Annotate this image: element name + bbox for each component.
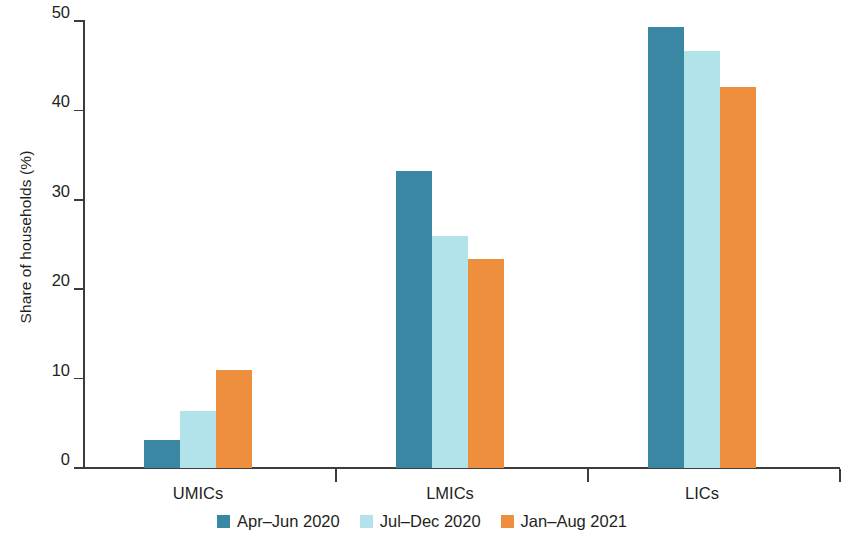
x-axis-tick <box>335 469 337 482</box>
legend-swatch-icon <box>217 515 230 528</box>
x-axis-category-label: LMICs <box>370 484 530 503</box>
legend-label: Jul–Dec 2020 <box>380 512 481 531</box>
x-axis-tick <box>587 469 589 482</box>
bar <box>144 440 180 468</box>
y-axis-label: Share of households (%) <box>17 107 35 367</box>
y-axis-tick <box>74 467 84 469</box>
y-axis-tick <box>74 199 84 201</box>
y-axis-tick <box>74 110 84 112</box>
y-axis-tick-label: 10 <box>28 362 70 379</box>
legend-item: Jan–Aug 2021 <box>501 512 627 531</box>
bar <box>720 87 756 468</box>
legend-label: Apr–Jun 2020 <box>237 512 340 531</box>
legend-item: Jul–Dec 2020 <box>360 512 481 531</box>
legend-item: Apr–Jun 2020 <box>217 512 340 531</box>
legend-label: Jan–Aug 2021 <box>521 512 627 531</box>
y-axis-tick-label: 20 <box>28 272 70 289</box>
y-axis-tick-label: 0 <box>28 451 70 468</box>
x-axis-tick <box>839 469 841 482</box>
bar <box>432 236 468 468</box>
bar <box>648 27 684 468</box>
legend-swatch-icon <box>360 515 373 528</box>
y-axis-tick <box>74 20 84 22</box>
bar <box>468 259 504 468</box>
y-axis-tick <box>74 378 84 380</box>
y-axis-tick-label: 40 <box>28 93 70 110</box>
chart-legend: Apr–Jun 2020Jul–Dec 2020Jan–Aug 2021 <box>0 512 844 531</box>
y-axis-tick <box>74 288 84 290</box>
y-axis-tick-label: 30 <box>28 183 70 200</box>
legend-swatch-icon <box>501 515 514 528</box>
bar <box>216 370 252 468</box>
bar <box>684 51 720 468</box>
bar <box>180 411 216 468</box>
bar <box>396 171 432 468</box>
x-axis-category-label: LICs <box>622 484 782 503</box>
plot-area <box>84 21 840 468</box>
y-axis-tick-label: 50 <box>28 4 70 21</box>
bar-chart: Share of households (%) 01020304050 UMIC… <box>0 0 844 540</box>
x-axis-category-label: UMICs <box>118 484 278 503</box>
